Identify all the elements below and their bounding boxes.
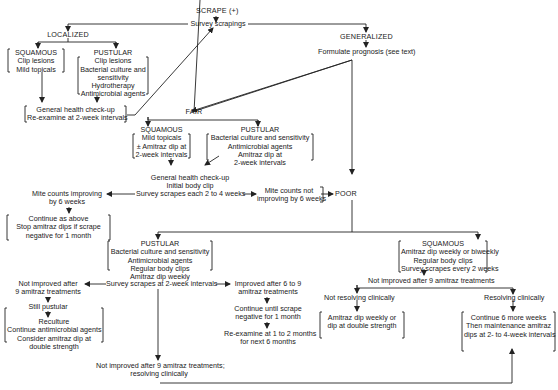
poor-squamous-box: SQUAMOUS Amitraz dip weekly or biweekly … [401, 240, 485, 273]
box-line: Antimicrobial agents [80, 90, 146, 98]
survey-scrapings-node: Survey scrapings [186, 20, 250, 28]
formulate-prognosis-node: Formulate prognosis (see text) [318, 48, 414, 56]
box-line: 2-week intervals [209, 159, 311, 167]
box-line: Re-examine at 2-week intervals [27, 114, 124, 122]
localized-squamous-box: SQUAMOUS Clip lesions Mild topicals [10, 49, 62, 74]
box-line: improving by 6 weeks [257, 195, 321, 203]
continue-as-above-box: Continue as above Stop amitraz dips if s… [9, 215, 108, 240]
pustular-improved-node: Improved after 6 to 9 amitraz treatments [232, 280, 304, 297]
localized-pustular-box: PUSTULAR Clip lesions Bacterial culture … [80, 49, 146, 99]
pustular-not-improved-node: Not improved after 9 amitraz treatments [14, 280, 82, 297]
reculture-box: Reculture Continue antimicrobial agents … [7, 318, 101, 351]
not-improved-resolving-node: Not improved after 9 amitraz treatments;… [96, 362, 222, 379]
poor-pustular-survey-node: Survey scrapes at 2-week intervals [106, 280, 216, 288]
not-resolving-node: Not resolving clinically [324, 294, 390, 302]
box-line: dip at double strength [322, 322, 402, 330]
re-examine-node: Re-examine at 1 to 2 months for next 6 m… [224, 330, 312, 347]
box-line: negative for 1 month [9, 232, 108, 240]
box-line: 9 amitraz treatments [14, 288, 82, 296]
resolving-node: Resolving clinically [484, 294, 542, 302]
mite-not-improving-node: Mite counts not improving by 6 weeks [257, 187, 321, 204]
generalized-label: GENERALIZED [340, 33, 392, 41]
fair-squamous-box: SQUAMOUS Mild topicals ± Amitraz dip at … [135, 126, 188, 159]
localized-label: LOCALIZED [44, 31, 92, 39]
fair-survey-node: Survey scrapes each 2 to 4 weeks [136, 190, 244, 198]
box-line: resolving clinically [96, 370, 222, 378]
scrape-positive-node: SCRAPE (+) [196, 7, 238, 15]
flowchart-canvas: SCRAPE (+) Survey scrapings LOCALIZED SQ… [0, 0, 558, 390]
poor-pustular-box: PUSTULAR Bacterial culture and sensitivi… [110, 240, 210, 281]
box-line: Survey scrapes every 2 weeks [401, 265, 485, 273]
box-line: amitraz treatments [232, 288, 304, 296]
squamous-not-improved-node: Not improved after 9 amitraz treatments [368, 277, 480, 285]
box-line: by 6 weeks [28, 198, 106, 206]
fair-pustular-box: PUSTULAR Bacterial culture and sensitivi… [209, 126, 311, 167]
not-resolving-action-box: Amitraz dip weekly or dip at double stre… [322, 314, 402, 331]
box-line: 2-week intervals [135, 151, 188, 159]
box-line: for next 6 months [224, 338, 312, 346]
continue-until-negative-node: Continue until scrape negative for 1 mon… [232, 305, 304, 322]
box-line: negative for 1 month [232, 313, 304, 321]
box-line: dips at 2- to 4-week intervals [464, 331, 553, 339]
fair-label: FAIR [184, 108, 204, 116]
poor-label: POOR [335, 190, 357, 198]
resolving-action-box: Continue 6 more weeks Then maintenance a… [464, 314, 553, 339]
box-line: Mild topicals [10, 66, 62, 74]
still-pustular-node: Still pustular [22, 303, 74, 311]
mite-improving-node: Mite counts improving by 6 weeks [28, 190, 106, 207]
box-line: double strength [7, 343, 101, 351]
localized-followup-box: General health check-up Re-examine at 2-… [27, 106, 124, 123]
